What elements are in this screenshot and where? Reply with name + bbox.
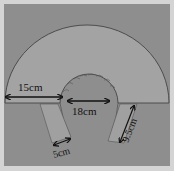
- outer-width-label: 15cm: [18, 81, 43, 93]
- diagram: 15cm 18cm 5cm 9.5cm: [0, 0, 174, 171]
- inner-diameter-label: 18cm: [72, 105, 97, 117]
